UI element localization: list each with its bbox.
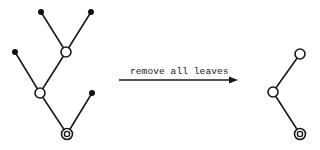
- edge-internal-a-to-leaf-3: [15, 52, 40, 93]
- root-node: [62, 129, 73, 140]
- edge-root-to-internal-a: [273, 92, 300, 134]
- operation-label: remove all leaves: [130, 66, 229, 77]
- remaining-node-a: [268, 87, 278, 97]
- leaf-node-4: [89, 90, 95, 96]
- edge-root-to-leaf-4: [67, 93, 92, 134]
- edge-internal-b-to-leaf-1: [41, 12, 66, 52]
- internal-node-b: [61, 47, 71, 57]
- edge-root-to-internal-a: [40, 93, 67, 134]
- edge-internal-b-to-leaf-2: [66, 12, 91, 52]
- internal-node-a: [35, 88, 45, 98]
- leaf-node-3: [12, 49, 18, 55]
- edge-internal-a-to-internal-b: [273, 54, 300, 92]
- arrowhead-icon: [229, 77, 238, 84]
- remaining-node-b: [295, 49, 305, 59]
- leaf-node-1: [38, 9, 44, 15]
- after-tree: [268, 49, 306, 140]
- transform-arrow: [119, 77, 238, 84]
- leaf-node-2: [88, 9, 94, 15]
- before-tree: [12, 9, 95, 140]
- edge-internal-a-to-internal-b: [40, 52, 66, 93]
- root-node: [295, 129, 306, 140]
